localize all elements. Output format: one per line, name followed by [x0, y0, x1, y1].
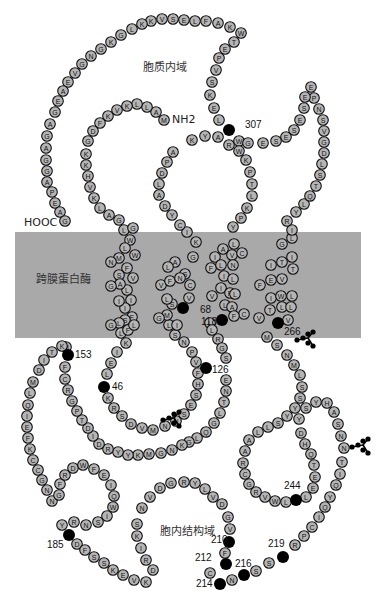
svg-text:S: S: [298, 395, 303, 402]
residue-bead: R: [69, 517, 80, 528]
residue-bead: L: [129, 320, 140, 331]
svg-text:P: P: [75, 408, 80, 415]
residue-bead: G: [83, 136, 94, 147]
svg-text:Y: Y: [297, 416, 302, 423]
svg-text:L: L: [145, 104, 149, 111]
residue-bead: S: [117, 411, 128, 422]
residue-bead: C: [240, 469, 251, 480]
residue-bead: E: [266, 275, 277, 286]
residue-bead: K: [103, 393, 114, 404]
svg-text:D: D: [159, 170, 164, 177]
residue-bead: D: [68, 463, 79, 474]
residue-bead: S: [264, 558, 275, 569]
svg-text:S: S: [135, 521, 140, 528]
svg-text:V: V: [148, 494, 153, 501]
residue-bead: K: [133, 450, 144, 461]
residue-bead: G: [41, 155, 52, 166]
svg-text:V: V: [140, 425, 145, 432]
residue-bead: C: [239, 309, 250, 320]
residue-bead: E: [220, 44, 231, 55]
residue-bead: E: [295, 115, 306, 126]
svg-text:I: I: [140, 545, 142, 552]
svg-text:Q: Q: [25, 402, 31, 410]
svg-text:R: R: [292, 542, 297, 549]
residue-bead: G: [42, 131, 53, 142]
residue-bead: G: [54, 490, 65, 501]
svg-text:Y: Y: [328, 494, 333, 501]
svg-text:E: E: [311, 485, 316, 492]
residue-bead: E: [22, 422, 33, 433]
residue-bead: K: [132, 531, 143, 542]
svg-text:M: M: [30, 379, 36, 386]
residue-bead: K: [191, 237, 202, 248]
svg-text:C: C: [187, 282, 192, 289]
svg-text:F: F: [26, 435, 30, 442]
residue-bead: H: [322, 398, 333, 409]
svg-text:G: G: [190, 254, 195, 261]
svg-text:L: L: [28, 390, 32, 397]
residue-bead: W: [234, 146, 245, 157]
svg-text:S: S: [276, 420, 281, 427]
svg-text:L: L: [210, 327, 214, 334]
residue-bead: I: [114, 296, 125, 307]
residue-bead: F: [220, 548, 231, 559]
residue-bead: V: [184, 293, 195, 304]
svg-text:L: L: [320, 161, 324, 168]
residue-bead: L: [132, 99, 143, 110]
residue-number: 266: [284, 326, 301, 337]
residue-bead: F: [80, 545, 91, 556]
residue-bead: N: [175, 273, 186, 284]
svg-text:S: S: [336, 421, 341, 428]
svg-text:A: A: [216, 134, 221, 141]
residue-bead: S: [271, 136, 282, 147]
residue-bead: I: [335, 469, 346, 480]
residue-bead: A: [42, 177, 53, 188]
svg-text:A: A: [107, 212, 112, 219]
residue-bead: E: [221, 375, 232, 386]
svg-text:S: S: [173, 332, 178, 339]
svg-text:V: V: [322, 128, 327, 135]
residue-number: 307: [245, 119, 262, 130]
residue-bead: Y: [167, 210, 178, 221]
residue-bead: I: [106, 480, 117, 491]
residue-bead: K: [25, 444, 36, 455]
svg-text:R: R: [143, 557, 148, 564]
svg-text:I: I: [270, 295, 272, 302]
residue-bead: V: [145, 492, 156, 503]
residue-bead: C: [237, 248, 248, 259]
residue-bead: P: [162, 157, 173, 168]
residue-bead: M: [159, 115, 170, 126]
residue-bead: G: [106, 281, 117, 292]
residue-bead: T: [265, 305, 276, 316]
svg-text:E: E: [53, 200, 58, 207]
residue-bead: K: [242, 203, 253, 214]
svg-text:I: I: [291, 227, 293, 234]
svg-text:L: L: [167, 322, 171, 329]
svg-text:F: F: [204, 18, 208, 25]
svg-text:G: G: [156, 315, 161, 322]
svg-text:L: L: [289, 304, 293, 311]
svg-text:Q: Q: [111, 493, 117, 501]
residue-number: 210: [211, 534, 228, 545]
svg-text:L: L: [122, 227, 126, 234]
residue-number: 185: [47, 539, 64, 550]
svg-text:F: F: [63, 364, 67, 371]
svg-text:F: F: [209, 265, 213, 272]
residue-bead: L: [163, 262, 174, 273]
svg-text:R: R: [62, 472, 67, 479]
residue-bead: S: [301, 403, 312, 414]
svg-text:E: E: [109, 360, 114, 367]
svg-text:T: T: [280, 259, 285, 266]
svg-text:L: L: [125, 287, 129, 294]
residue-bead: R: [282, 216, 293, 227]
svg-text:Q: Q: [322, 504, 328, 512]
svg-text:T: T: [340, 459, 345, 466]
marked-residue: [277, 551, 289, 563]
svg-text:V: V: [257, 315, 262, 322]
svg-text:A: A: [247, 437, 252, 444]
residue-bead: D: [126, 419, 137, 430]
residue-bead: I: [266, 293, 277, 304]
svg-text:E: E: [102, 472, 107, 479]
residue-bead: N: [137, 503, 148, 514]
residue-bead: S: [207, 77, 218, 88]
